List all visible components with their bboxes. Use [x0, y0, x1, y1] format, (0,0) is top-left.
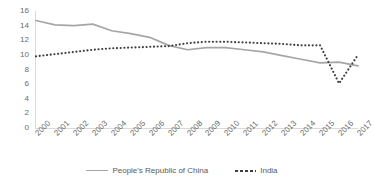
legend-entry-china[interactable]: People's Republic of China	[86, 166, 208, 175]
legend-swatch-solid-icon	[86, 170, 108, 171]
chart-legend: People's Republic of China India	[0, 166, 364, 175]
legend-label-china: People's Republic of China	[112, 166, 208, 175]
series-line-china	[36, 21, 358, 66]
legend-entry-india[interactable]: India	[234, 166, 277, 175]
legend-label-india: India	[260, 166, 277, 175]
legend-swatch-dotted-icon	[234, 170, 256, 172]
